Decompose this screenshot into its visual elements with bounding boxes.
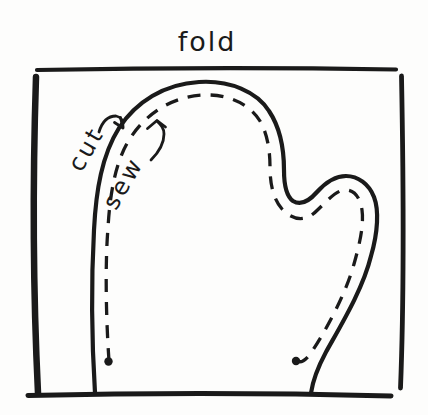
fold-label: fold xyxy=(178,26,237,57)
fold-edge-top-border xyxy=(37,68,396,70)
paper-background xyxy=(0,0,428,415)
seam-end-dot-left xyxy=(104,357,112,365)
seam-end-dot-right xyxy=(292,357,300,365)
mitten-sewing-pattern: fold cut sew xyxy=(0,0,428,415)
fabric-right-border xyxy=(401,76,404,388)
pattern-drawing: fold cut sew xyxy=(0,0,428,415)
fabric-bottom-border xyxy=(28,394,391,396)
